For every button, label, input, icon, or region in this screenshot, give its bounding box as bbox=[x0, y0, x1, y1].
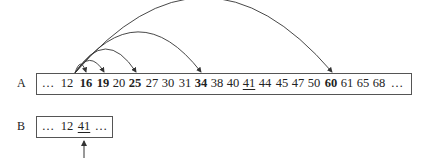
pointer-arrows bbox=[0, 0, 425, 164]
arc-arrows bbox=[75, 0, 332, 73]
arc-to-25 bbox=[75, 49, 136, 73]
arc-to-60 bbox=[75, 0, 332, 73]
